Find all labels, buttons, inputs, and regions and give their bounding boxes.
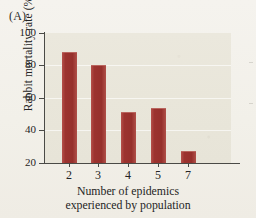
y-tick-label-100: 100 [20, 26, 37, 38]
bar-3 [91, 65, 106, 164]
y-tick-label-20: 20 [25, 156, 36, 168]
plot-area [45, 33, 231, 163]
bar-7 [181, 151, 196, 163]
x-tick-label-2: 2 [59, 168, 79, 183]
x-tick-4 [128, 163, 129, 167]
y-tick-label-60: 60 [25, 91, 36, 103]
y-tick-label-80: 80 [25, 58, 36, 70]
page-edge-mark-bottom [249, 103, 253, 104]
x-tick-label-3: 3 [88, 168, 108, 183]
x-tick-5 [158, 163, 159, 167]
bar-5 [151, 108, 166, 163]
y-tick-label-40: 40 [25, 123, 36, 135]
x-tick-label-4: 4 [118, 168, 138, 183]
bar-2 [62, 52, 77, 164]
x-tick-label-7: 7 [178, 168, 198, 183]
x-tick-label-5: 5 [148, 168, 168, 183]
y-tick-100: 100 [39, 33, 45, 34]
x-axis-title: Number of epidemics experienced by popul… [0, 184, 256, 212]
y-tick-20: 20 [39, 163, 45, 164]
y-tick-40: 40 [39, 130, 45, 131]
page-edge-mark-top [249, 62, 253, 63]
bar-4 [121, 112, 136, 163]
x-axis-title-line2: experienced by population [0, 198, 256, 212]
y-tick-80: 80 [39, 65, 45, 66]
figure-panel: (A) Rabbit mortality rate (%) 100 80 60 … [0, 0, 256, 218]
x-tick-2 [69, 163, 70, 167]
x-axis-title-line1: Number of epidemics [0, 184, 256, 198]
x-axis-line [40, 163, 240, 164]
x-tick-3 [98, 163, 99, 167]
y-tick-60: 60 [39, 98, 45, 99]
x-tick-7 [188, 163, 189, 167]
